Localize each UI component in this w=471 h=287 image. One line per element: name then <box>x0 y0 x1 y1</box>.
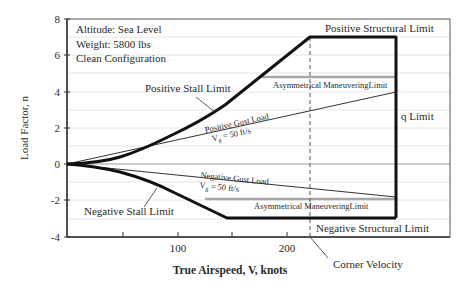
x-tick-labels: 100 200 <box>170 242 296 254</box>
svg-text:0: 0 <box>55 158 61 170</box>
corner-leader <box>310 237 328 258</box>
negative-gust-label: Negative Gust Load Vg = 50 ft/s <box>199 170 270 198</box>
svg-text:Weight: 5800 lbs: Weight: 5800 lbs <box>76 38 151 50</box>
pos-stall-leader <box>196 97 216 113</box>
asym-negative-label: Asymmetrical ManeuveringLimit <box>254 201 369 211</box>
svg-text:Altitude: Sea Level: Altitude: Sea Level <box>76 23 162 35</box>
svg-text:4: 4 <box>55 86 61 98</box>
negative-stall-label: Negative Stall Limit <box>84 205 174 217</box>
conditions-box: Altitude: Sea Level Weight: 5800 lbs Cle… <box>76 23 167 64</box>
corner-velocity-label: Corner Velocity <box>333 258 403 270</box>
asym-positive-label: Asymmetrical ManeuveringLimit <box>273 80 388 90</box>
svg-text:100: 100 <box>170 242 187 254</box>
v-n-diagram: 8 6 4 2 0 -2 -4 100 200 True Airspeed, V… <box>0 0 471 287</box>
positive-stall-label: Positive Stall Limit <box>145 82 231 94</box>
svg-text:2: 2 <box>55 122 61 134</box>
q-limit-label: q Limit <box>401 110 434 122</box>
svg-text:-4: -4 <box>51 231 61 243</box>
y-axis-title: Load Factor, n <box>18 95 30 160</box>
svg-text:6: 6 <box>55 49 61 61</box>
gridlines <box>67 37 450 219</box>
svg-text:8: 8 <box>55 13 61 25</box>
svg-text:200: 200 <box>279 242 296 254</box>
x-axis-title: True Airspeed, V, knots <box>173 264 288 277</box>
svg-text:-2: -2 <box>51 194 60 206</box>
y-tick-labels: 8 6 4 2 0 -2 -4 <box>51 13 61 243</box>
positive-structural-label: Positive Structural Limit <box>325 22 434 34</box>
negative-structural-label: Negative Structural Limit <box>316 222 429 234</box>
svg-text:Clean Configuration: Clean Configuration <box>76 52 167 64</box>
